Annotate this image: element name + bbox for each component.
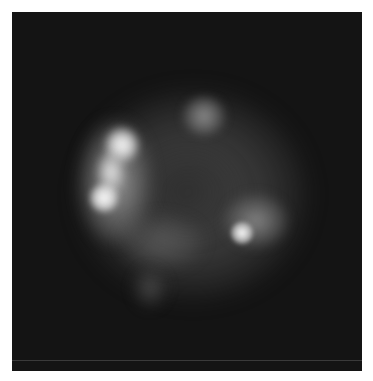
- bottom-tail: [132, 267, 168, 309]
- top-blob: [183, 97, 225, 135]
- microscopy-image: [12, 12, 362, 371]
- lower-right-spot: [231, 222, 253, 244]
- bottom-line: [12, 360, 362, 361]
- lower-left-glow: [122, 217, 202, 267]
- left-crescent-lower: [90, 184, 118, 212]
